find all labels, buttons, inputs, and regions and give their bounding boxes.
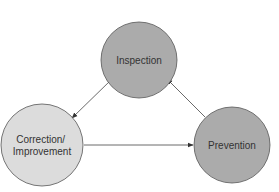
prevention-label: Prevention bbox=[208, 140, 256, 151]
inspection-label: Inspection bbox=[116, 55, 162, 66]
node-inspection: Inspection bbox=[101, 22, 177, 98]
arrow-inspection-to-correction bbox=[72, 80, 111, 118]
node-correction-improvement: Correction/ Improvement bbox=[1, 104, 83, 186]
correction-improvement-label: Correction/ Improvement bbox=[13, 134, 72, 157]
cycle-diagram: Inspection Correction/ Improvement Preve… bbox=[0, 0, 279, 192]
node-prevention: Prevention bbox=[194, 107, 270, 183]
arrow-prevention-to-inspection bbox=[167, 79, 205, 117]
